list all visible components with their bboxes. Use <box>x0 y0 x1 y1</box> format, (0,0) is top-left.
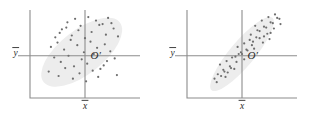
scatter-svg: O′xy <box>0 0 158 121</box>
data-point <box>233 68 235 70</box>
data-point <box>80 25 82 27</box>
x-mean-label: x <box>239 100 246 110</box>
data-point <box>262 41 264 43</box>
data-point <box>272 22 274 24</box>
data-point <box>217 73 219 75</box>
data-point <box>273 27 275 29</box>
data-point <box>227 71 229 73</box>
data-point <box>72 78 74 80</box>
data-point <box>97 76 99 78</box>
data-point <box>255 36 257 38</box>
data-point <box>78 72 80 74</box>
data-point <box>53 56 55 58</box>
data-point <box>265 27 267 29</box>
data-point <box>92 70 94 72</box>
data-point <box>71 34 73 36</box>
data-point <box>64 67 66 69</box>
scatter-plot-figure: O′xy O′xy <box>0 0 315 121</box>
data-point <box>241 53 243 55</box>
data-point <box>243 58 245 60</box>
x-mean-label-text: x <box>82 101 88 111</box>
data-point <box>220 75 222 77</box>
data-point <box>61 28 63 30</box>
data-point <box>263 35 265 37</box>
data-point <box>219 63 221 65</box>
origin-label: O′ <box>91 49 102 61</box>
data-point <box>223 71 225 73</box>
data-point <box>249 39 251 41</box>
data-point <box>70 39 72 41</box>
data-point <box>230 67 232 69</box>
data-point <box>87 16 89 18</box>
data-point <box>104 43 106 45</box>
data-point <box>238 53 240 55</box>
scatter-svg: O′xy <box>157 0 315 121</box>
data-point <box>235 61 237 63</box>
data-point <box>266 33 268 35</box>
data-point <box>252 41 254 43</box>
data-point <box>278 18 280 20</box>
left-scatter-panel: O′xy <box>0 0 158 121</box>
data-point <box>109 50 111 52</box>
data-point <box>105 34 107 36</box>
data-point <box>95 19 97 21</box>
data-point <box>77 29 79 31</box>
data-point <box>89 41 91 43</box>
data-point <box>106 60 108 62</box>
data-point <box>60 61 62 63</box>
data-point <box>56 41 58 43</box>
data-point <box>65 27 67 29</box>
data-point <box>216 81 218 83</box>
data-point <box>63 49 65 51</box>
data-point <box>267 16 269 18</box>
data-point <box>259 37 261 39</box>
data-point <box>48 71 50 73</box>
correlation-ellipse <box>30 5 133 99</box>
data-point <box>263 26 265 28</box>
data-point <box>81 58 83 60</box>
data-point <box>259 30 261 32</box>
data-point <box>102 23 104 25</box>
data-point <box>83 51 85 53</box>
x-mean-label: x <box>82 100 89 110</box>
data-point <box>114 57 116 59</box>
data-point <box>116 74 118 76</box>
data-point <box>110 22 112 24</box>
data-point <box>234 56 236 58</box>
x-mean-label-text: x <box>239 101 245 111</box>
data-point <box>84 37 86 39</box>
data-point <box>274 13 276 15</box>
data-point <box>59 32 61 34</box>
data-point <box>226 60 228 62</box>
data-point <box>250 34 252 36</box>
data-point <box>91 31 93 33</box>
data-point <box>98 24 100 26</box>
data-point <box>85 80 87 82</box>
data-point <box>270 21 272 23</box>
data-point <box>74 18 76 20</box>
data-point <box>117 35 119 37</box>
data-point <box>261 19 263 21</box>
data-point <box>103 64 105 66</box>
data-point <box>107 17 109 19</box>
data-point <box>50 46 52 48</box>
data-point <box>279 23 281 25</box>
data-point <box>224 76 226 78</box>
data-point <box>256 29 258 31</box>
data-point <box>243 42 245 44</box>
data-point <box>254 25 256 27</box>
data-point <box>113 27 115 29</box>
data-point <box>54 36 56 38</box>
y-mean-label-text: y <box>170 48 176 58</box>
data-point <box>270 32 272 34</box>
data-point <box>251 44 253 46</box>
data-point <box>73 65 75 67</box>
data-point <box>76 44 78 46</box>
data-point <box>237 46 239 48</box>
data-point <box>66 21 68 23</box>
right-scatter-panel: O′xy <box>157 0 315 121</box>
data-point <box>67 55 69 57</box>
y-mean-label-text: y <box>13 48 19 58</box>
data-point <box>276 17 278 19</box>
data-point <box>231 56 233 58</box>
